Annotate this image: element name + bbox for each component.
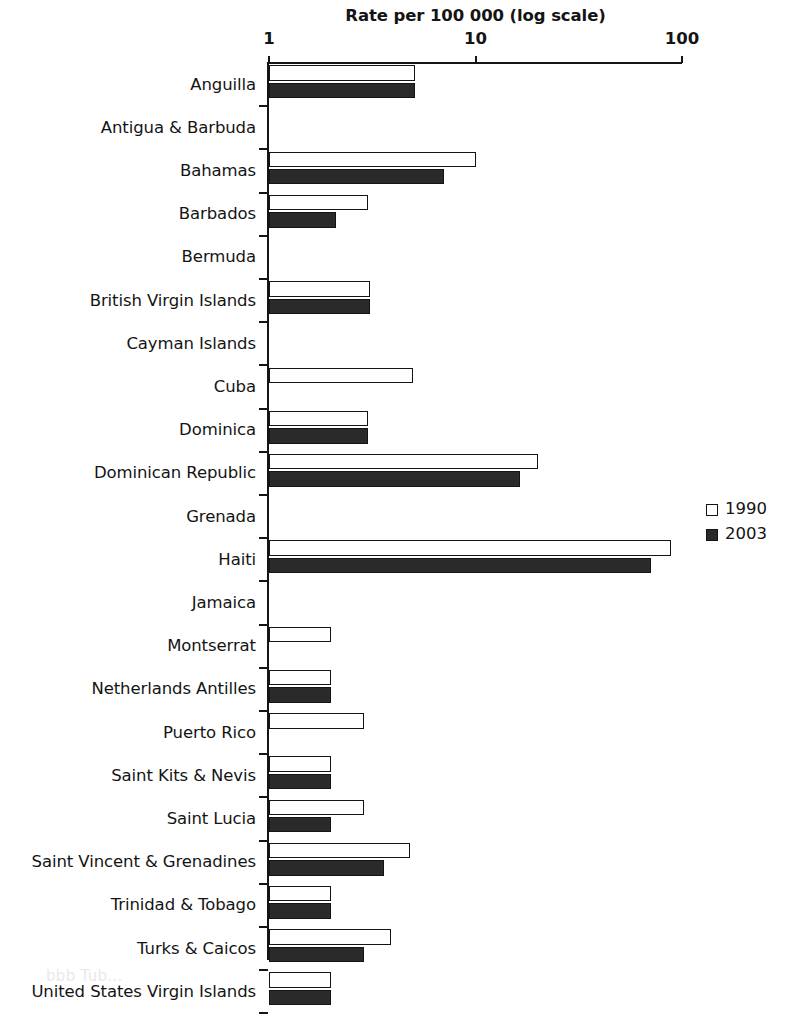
category-label: Haiti bbox=[218, 549, 256, 568]
chart-row: Puerto Rico bbox=[0, 710, 796, 753]
chart-row: Saint Kits & Nevis bbox=[0, 753, 796, 796]
bar-1990 bbox=[269, 756, 331, 772]
bar-2003 bbox=[269, 558, 651, 574]
y-tick-mark bbox=[259, 321, 268, 323]
bar-2003 bbox=[269, 471, 520, 487]
bar-1990 bbox=[269, 929, 391, 945]
bar-group bbox=[269, 278, 689, 321]
chart-row: Dominica bbox=[0, 408, 796, 451]
y-tick-mark bbox=[259, 753, 268, 755]
bar-group bbox=[269, 494, 689, 537]
chart-legend: 1990 2003 bbox=[706, 497, 767, 547]
chart-row: Antigua & Barbuda bbox=[0, 105, 796, 148]
y-tick-mark bbox=[259, 580, 268, 582]
bar-1990 bbox=[269, 411, 368, 427]
bar-1990 bbox=[269, 670, 331, 686]
y-tick-mark bbox=[259, 278, 268, 280]
category-label: Trinidad & Tobago bbox=[111, 895, 256, 914]
bar-1990 bbox=[269, 843, 410, 859]
bar-2003 bbox=[269, 299, 370, 315]
bar-1990 bbox=[269, 454, 538, 470]
category-label: Bahamas bbox=[180, 160, 256, 179]
category-label: Jamaica bbox=[192, 592, 256, 611]
category-label: Anguilla bbox=[190, 74, 256, 93]
chart-row: Grenada bbox=[0, 494, 796, 537]
bar-group bbox=[269, 235, 689, 278]
y-tick-mark bbox=[259, 926, 268, 928]
bar-1990 bbox=[269, 65, 415, 81]
bar-group bbox=[269, 796, 689, 839]
bar-group bbox=[269, 883, 689, 926]
chart-row: British Virgin Islands bbox=[0, 278, 796, 321]
bar-2003 bbox=[269, 947, 364, 963]
bar-2003 bbox=[269, 212, 336, 228]
bar-group bbox=[269, 580, 689, 623]
bar-group bbox=[269, 753, 689, 796]
bar-1990 bbox=[269, 627, 331, 643]
y-tick-mark bbox=[259, 364, 268, 366]
bar-group bbox=[269, 926, 689, 969]
chart-row: Haiti bbox=[0, 537, 796, 580]
chart-title: Rate per 100 000 (log scale) bbox=[269, 6, 682, 25]
legend-swatch-1990-icon bbox=[706, 504, 718, 516]
bar-1990 bbox=[269, 281, 370, 297]
y-tick-mark bbox=[259, 192, 268, 194]
bar-group bbox=[269, 192, 689, 235]
chart-row: Cayman Islands bbox=[0, 321, 796, 364]
bar-group bbox=[269, 969, 689, 1012]
y-tick-mark bbox=[259, 235, 268, 237]
chart-row: Barbados bbox=[0, 192, 796, 235]
chart-row: Bermuda bbox=[0, 235, 796, 278]
category-label: Cuba bbox=[214, 376, 256, 395]
category-label: Saint Kits & Nevis bbox=[111, 765, 256, 784]
chart-row: Trinidad & Tobago bbox=[0, 883, 796, 926]
bar-1990 bbox=[269, 152, 476, 168]
y-tick-mark bbox=[259, 969, 268, 971]
bar-1990 bbox=[269, 195, 368, 211]
chart-row: Anguilla bbox=[0, 62, 796, 105]
category-label: Netherlands Antilles bbox=[91, 679, 256, 698]
bar-2003 bbox=[269, 817, 331, 833]
y-tick-mark bbox=[259, 883, 268, 885]
category-label: Saint Lucia bbox=[167, 808, 256, 827]
bar-2003 bbox=[269, 687, 331, 703]
bar-group bbox=[269, 364, 689, 407]
chart-row: Netherlands Antilles bbox=[0, 667, 796, 710]
bar-1990 bbox=[269, 972, 331, 988]
legend-item-1990: 1990 bbox=[706, 497, 767, 522]
chart-row: Cuba bbox=[0, 364, 796, 407]
legend-swatch-2003-icon bbox=[706, 529, 718, 541]
bar-2003 bbox=[269, 428, 368, 444]
bar-group bbox=[269, 321, 689, 364]
legend-label-2003: 2003 bbox=[725, 526, 767, 543]
y-tick-mark bbox=[259, 451, 268, 453]
category-label: Bermuda bbox=[182, 247, 256, 266]
category-label: Grenada bbox=[186, 506, 256, 525]
caption-fragment: bbb Tub... bbox=[46, 967, 123, 985]
y-tick-mark bbox=[259, 105, 268, 107]
category-label: Cayman Islands bbox=[126, 333, 256, 352]
y-tick-mark bbox=[259, 537, 268, 539]
bar-1990 bbox=[269, 713, 364, 729]
y-tick-mark bbox=[259, 408, 268, 410]
bar-1990 bbox=[269, 368, 413, 384]
bar-group bbox=[269, 840, 689, 883]
bar-group bbox=[269, 62, 689, 105]
chart-row: Dominican Republic bbox=[0, 451, 796, 494]
bar-2003 bbox=[269, 83, 415, 99]
bar-group bbox=[269, 148, 689, 191]
bar-group bbox=[269, 710, 689, 753]
bar-1990 bbox=[269, 886, 331, 902]
bar-group bbox=[269, 624, 689, 667]
y-tick-mark bbox=[259, 667, 268, 669]
y-tick-mark bbox=[259, 796, 268, 798]
legend-label-1990: 1990 bbox=[725, 501, 767, 518]
bar-1990 bbox=[269, 800, 364, 816]
y-tick-mark bbox=[259, 710, 268, 712]
x-tick-label-10: 10 bbox=[464, 29, 487, 48]
chart-row: Montserrat bbox=[0, 624, 796, 667]
bar-2003 bbox=[269, 990, 331, 1006]
bar-group bbox=[269, 105, 689, 148]
bar-2003 bbox=[269, 903, 331, 919]
